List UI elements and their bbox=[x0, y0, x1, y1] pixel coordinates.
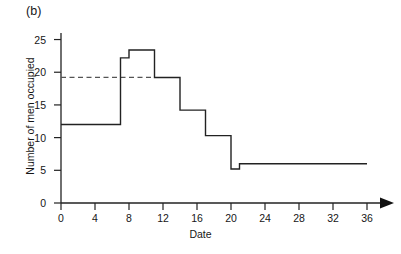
x-tick-label: 4 bbox=[80, 213, 110, 223]
y-tick-label: 10 bbox=[12, 133, 46, 143]
x-tick-label: 0 bbox=[46, 213, 76, 223]
x-tick-label: 36 bbox=[352, 213, 382, 223]
y-tick-label: 0 bbox=[12, 198, 46, 208]
x-tick-label: 8 bbox=[114, 213, 144, 223]
x-tick-label: 20 bbox=[216, 213, 246, 223]
y-axis-ticks bbox=[54, 40, 61, 203]
series-paths bbox=[61, 50, 367, 169]
x-tick-label: 12 bbox=[148, 213, 178, 223]
x-axis-arrow-icon bbox=[380, 198, 394, 209]
x-tick-label: 32 bbox=[318, 213, 348, 223]
x-tick-label: 28 bbox=[284, 213, 314, 223]
figure-panel: (b) Number of men occupied Date 05101520… bbox=[0, 0, 401, 254]
y-tick-label: 25 bbox=[12, 35, 46, 45]
x-tick-label: 24 bbox=[250, 213, 280, 223]
y-tick-label: 15 bbox=[12, 100, 46, 110]
y-tick-label: 20 bbox=[12, 67, 46, 77]
x-axis-ticks bbox=[61, 203, 367, 210]
step-line-series bbox=[61, 50, 367, 169]
x-tick-label: 16 bbox=[182, 213, 212, 223]
y-tick-label: 5 bbox=[12, 165, 46, 175]
